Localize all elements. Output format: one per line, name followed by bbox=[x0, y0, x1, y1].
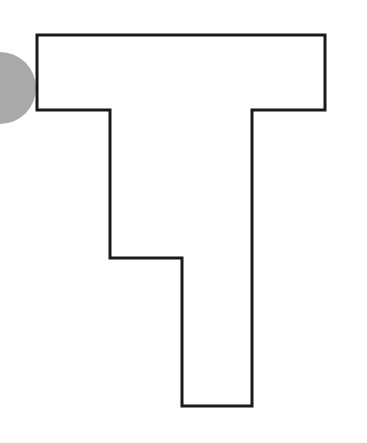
t-shaped-outline bbox=[37, 35, 325, 406]
gray-circle bbox=[0, 52, 36, 124]
figure-canvas bbox=[0, 0, 367, 443]
